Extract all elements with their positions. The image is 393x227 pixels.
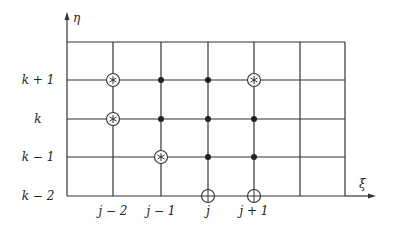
row-label: k [34, 112, 41, 126]
circled-asterisk-icon [107, 113, 120, 126]
circled-asterisk-icon [248, 74, 261, 87]
eta-arrow-icon [65, 12, 70, 20]
circled-asterisk-icon [155, 151, 168, 164]
filled-dot-point [158, 77, 164, 83]
xi-axis-label: ξ [359, 177, 367, 191]
circled-plus-icon [202, 190, 215, 203]
xi-arrow-icon [368, 194, 376, 199]
column-label: j [203, 204, 210, 218]
row-label: k − 1 [22, 150, 55, 164]
filled-dot-point [251, 154, 257, 160]
row-label: k − 2 [22, 189, 55, 203]
circled-plus-icon [248, 190, 261, 203]
filled-dot-point [251, 116, 257, 122]
row-label: k + 1 [22, 73, 55, 87]
stencil-diagram: ηξk + 1kk − 1k − 2j − 2j − 1jj + 1 [0, 0, 393, 227]
filled-dot-point [158, 116, 164, 122]
filled-dot-point [205, 116, 211, 122]
eta-axis-label: η [73, 11, 81, 25]
circled-asterisk-icon [107, 74, 120, 87]
column-label: j − 1 [143, 204, 175, 218]
filled-dot-point [205, 77, 211, 83]
column-label: j + 1 [236, 204, 268, 218]
column-label: j − 2 [95, 204, 127, 218]
filled-dot-point [205, 154, 211, 160]
axes [65, 12, 377, 199]
grid-points [107, 74, 261, 203]
